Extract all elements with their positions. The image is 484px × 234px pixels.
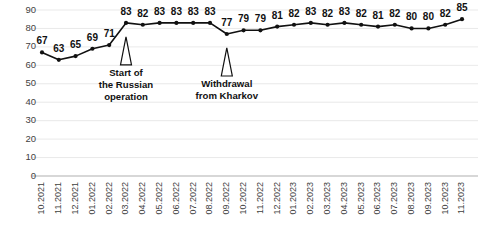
data-point bbox=[410, 26, 414, 30]
data-point bbox=[124, 21, 128, 25]
y-axis-tick-labels: 0102030405060708090 bbox=[25, 4, 36, 181]
data-point bbox=[359, 23, 363, 27]
x-axis-tick-label: 06.2022 bbox=[171, 182, 181, 215]
data-value-label: 63 bbox=[53, 43, 65, 54]
annotation-text-line: from Kharkov bbox=[196, 90, 259, 101]
data-value-label: 71 bbox=[104, 28, 116, 39]
data-value-label: 82 bbox=[356, 8, 368, 19]
y-axis-tick-label: 0 bbox=[31, 170, 36, 181]
data-point bbox=[141, 23, 145, 27]
data-value-label: 79 bbox=[255, 13, 267, 24]
x-axis-tick-label: 01.2023 bbox=[288, 182, 298, 215]
x-axis-tick-label: 11.2021 bbox=[53, 182, 63, 214]
data-value-label: 82 bbox=[389, 8, 401, 19]
data-point bbox=[342, 21, 346, 25]
annotation-text-line: the Russian bbox=[99, 79, 154, 90]
data-points bbox=[40, 17, 464, 62]
y-axis-tick-label: 50 bbox=[25, 77, 36, 88]
annotation-text-line: Start of bbox=[109, 67, 143, 78]
up-arrow-icon bbox=[121, 37, 132, 65]
data-point bbox=[191, 21, 195, 25]
data-point bbox=[107, 43, 111, 47]
y-axis-tick-label: 60 bbox=[25, 59, 36, 70]
x-axis-tick-label: 08.2022 bbox=[204, 182, 214, 215]
data-value-label: 82 bbox=[440, 8, 452, 19]
up-arrow-icon bbox=[221, 48, 232, 76]
data-value-label: 65 bbox=[70, 39, 82, 50]
y-axis-tick-label: 80 bbox=[25, 22, 36, 33]
data-value-label: 69 bbox=[87, 32, 99, 43]
x-axis-tick-label: 11.2023 bbox=[456, 182, 466, 214]
x-axis-tick-label: 07.2023 bbox=[389, 182, 399, 215]
data-value-label: 77 bbox=[221, 17, 233, 28]
x-axis-tick-label: 03.2023 bbox=[322, 182, 332, 215]
data-point bbox=[40, 50, 44, 54]
x-axis-tick-label: 09.2023 bbox=[423, 182, 433, 215]
data-point bbox=[275, 25, 279, 29]
data-point bbox=[208, 21, 212, 25]
data-value-label: 82 bbox=[288, 8, 300, 19]
x-axis-tick-label: 01.2022 bbox=[87, 182, 97, 215]
x-axis-tick-label: 12.2021 bbox=[70, 182, 80, 215]
x-axis-tick-label: 04.2022 bbox=[137, 182, 147, 215]
data-point bbox=[426, 26, 430, 30]
x-axis-tick-label: 05.2022 bbox=[154, 182, 164, 215]
x-axis-tick-label: 05.2023 bbox=[356, 182, 366, 215]
x-axis-tick-label: 10.2023 bbox=[440, 182, 450, 215]
data-value-label: 83 bbox=[120, 6, 132, 17]
x-axis-tick-labels: 10.202111.202112.202101.202202.202203.20… bbox=[36, 182, 466, 215]
x-axis-tick-label: 02.2022 bbox=[104, 182, 114, 215]
data-series bbox=[42, 19, 462, 60]
y-axis-tick-label: 20 bbox=[25, 133, 36, 144]
data-point bbox=[460, 17, 464, 21]
y-axis-tick-label: 30 bbox=[25, 114, 36, 125]
y-axis-tick-label: 90 bbox=[25, 4, 36, 15]
data-value-label: 67 bbox=[36, 35, 48, 46]
x-axis-tick-label: 10.2021 bbox=[36, 182, 46, 215]
line-chart: 0102030405060708090 10.202111.202112.202… bbox=[0, 0, 484, 234]
y-axis-tick-label: 10 bbox=[25, 151, 36, 162]
data-point bbox=[90, 47, 94, 51]
data-point bbox=[242, 28, 246, 32]
x-axis-tick-label: 07.2022 bbox=[188, 182, 198, 215]
data-value-label: 79 bbox=[238, 13, 250, 24]
data-point bbox=[326, 23, 330, 27]
x-axis-tick-label: 12.2022 bbox=[272, 182, 282, 215]
x-axis-tick-label: 10.2022 bbox=[238, 182, 248, 215]
annotation-withdrawal-from-kharkov: Withdrawalfrom Kharkov bbox=[196, 48, 259, 101]
data-value-label: 83 bbox=[339, 6, 351, 17]
y-axis-tick-label: 40 bbox=[25, 96, 36, 107]
annotation-text-line: Withdrawal bbox=[201, 78, 252, 89]
data-value-label: 82 bbox=[137, 8, 149, 19]
data-value-label: 85 bbox=[456, 2, 468, 13]
data-point bbox=[443, 23, 447, 27]
data-point bbox=[292, 23, 296, 27]
data-value-label: 80 bbox=[406, 11, 418, 22]
data-point bbox=[57, 58, 61, 62]
data-value-label: 83 bbox=[188, 6, 200, 17]
data-point bbox=[225, 32, 229, 36]
x-axis-tick-label: 04.2023 bbox=[339, 182, 349, 215]
data-value-label: 83 bbox=[171, 6, 183, 17]
data-point bbox=[158, 21, 162, 25]
data-point bbox=[309, 21, 313, 25]
x-axis-tick-label: 11.2022 bbox=[255, 182, 265, 214]
data-value-label: 83 bbox=[305, 6, 317, 17]
x-axis-tick-label: 02.2023 bbox=[305, 182, 315, 215]
series-line bbox=[42, 19, 462, 60]
data-value-label: 83 bbox=[154, 6, 166, 17]
data-point bbox=[74, 54, 78, 58]
data-value-label: 82 bbox=[322, 8, 334, 19]
x-axis-tick-label: 06.2023 bbox=[372, 182, 382, 215]
data-value-label: 81 bbox=[272, 10, 284, 21]
chart-canvas: 0102030405060708090 10.202111.202112.202… bbox=[0, 0, 484, 234]
x-axis-tick-label: 09.2022 bbox=[221, 182, 231, 215]
data-point bbox=[258, 28, 262, 32]
y-axis-tick-label: 70 bbox=[25, 40, 36, 51]
data-point bbox=[376, 25, 380, 29]
data-value-label: 83 bbox=[204, 6, 216, 17]
annotation-text-line: operation bbox=[104, 91, 148, 102]
x-axis-tick-label: 08.2023 bbox=[406, 182, 416, 215]
data-point bbox=[174, 21, 178, 25]
data-value-label: 81 bbox=[372, 10, 384, 21]
